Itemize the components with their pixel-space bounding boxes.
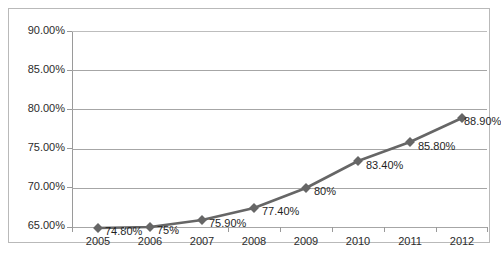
x-axis-tick-mark — [72, 227, 73, 232]
x-axis-tick-label: 2006 — [138, 235, 162, 247]
x-axis-tick-mark — [228, 227, 229, 232]
x-axis-tick-label: 2005 — [86, 235, 110, 247]
y-axis-tick-label: 85.00% — [11, 64, 65, 75]
y-axis-tick-label: 70.00% — [11, 181, 65, 192]
data-point-label: 83.40% — [366, 160, 403, 171]
x-axis-tick-mark — [124, 227, 125, 232]
x-axis-tick-mark — [280, 227, 281, 232]
y-axis-tick-label: 80.00% — [11, 103, 65, 114]
x-axis-tick-mark — [176, 227, 177, 232]
x-axis-tick-mark — [332, 227, 333, 232]
x-axis-tick-label: 2009 — [294, 235, 318, 247]
plot-area: 74.80% 75% 75.90% 77.40% 80% 83.40% 85.8… — [72, 31, 487, 227]
x-axis-tick-label: 2010 — [346, 235, 370, 247]
series-line — [72, 31, 487, 227]
x-axis-tick-label: 2007 — [190, 235, 214, 247]
x-axis-tick-label: 2008 — [242, 235, 266, 247]
data-point-label: 80% — [314, 186, 336, 197]
y-axis-tick-label: 75.00% — [11, 142, 65, 153]
data-point-label: 77.40% — [262, 206, 299, 217]
x-axis-tick-mark — [384, 227, 385, 232]
data-point-label: 85.80% — [418, 141, 455, 152]
data-point-label: 88.90% — [464, 116, 501, 127]
x-axis-tick-label: 2012 — [450, 235, 474, 247]
x-axis-tick-mark — [436, 227, 437, 232]
y-axis-tick-label: 65.00% — [11, 220, 65, 231]
x-axis-tick-label: 2011 — [398, 235, 422, 247]
x-axis-tick-mark — [487, 227, 488, 232]
chart-frame: 90.00% 85.00% 80.00% 75.00% 70.00% 65.00… — [8, 8, 490, 243]
y-axis-tick-label: 90.00% — [11, 25, 65, 36]
x-axis-labels: 2005 2006 2007 2008 2009 2010 2011 2012 — [72, 227, 487, 257]
